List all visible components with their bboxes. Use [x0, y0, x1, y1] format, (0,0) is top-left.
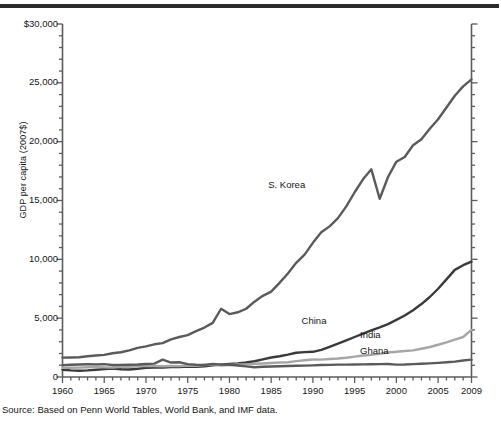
x-axis-tick-label: 1965 [82, 385, 126, 396]
x-axis-tick-label: 1960 [41, 385, 85, 396]
series-label-china: China [302, 315, 327, 326]
x-axis-tick-label: 1985 [249, 385, 293, 396]
series-label-india: India [360, 329, 381, 340]
x-axis-tick-label: 1995 [333, 385, 377, 396]
x-axis-tick-label: 1975 [166, 385, 210, 396]
x-axis-tick-labels: 1960196519701975198019851990199520002005… [0, 0, 501, 400]
series-label-s-korea: S. Korea [268, 179, 305, 190]
x-axis-tick-label: 1990 [291, 385, 335, 396]
x-axis-tick-label: 1980 [207, 385, 251, 396]
series-label-ghana: Ghana [360, 345, 389, 356]
source-note: Source: Based on Penn World Tables, Worl… [2, 404, 278, 415]
x-axis-tick-label: 2000 [374, 385, 418, 396]
x-axis-tick-label: 1970 [124, 385, 168, 396]
chart-figure: GDP per capita (2007$) 05,00010,00015,00… [0, 0, 501, 422]
x-axis-tick-label: 2009 [450, 385, 494, 396]
